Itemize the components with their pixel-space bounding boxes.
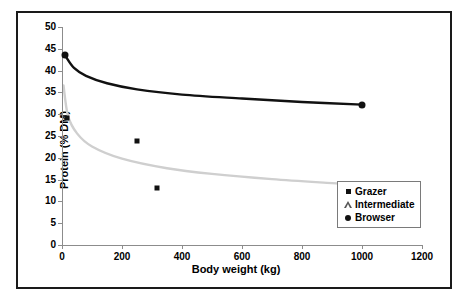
legend-item-intermediate: Intermediate: [342, 198, 414, 211]
legend-item-grazer: Grazer: [342, 185, 414, 198]
data-point-grazer: [135, 139, 140, 144]
y-tick-label: 40: [45, 66, 56, 76]
x-tick-mark: [62, 245, 63, 249]
y-tick-label: 30: [45, 109, 56, 119]
y-tick-label: 20: [45, 153, 56, 163]
trendline: [64, 85, 384, 186]
y-tick-mark: [58, 223, 62, 224]
y-tick-label: 0: [50, 240, 56, 250]
x-tick-mark: [182, 245, 183, 249]
filled-square-icon: [342, 189, 354, 194]
x-axis-title: Body weight (kg): [18, 263, 454, 275]
y-tick-mark: [58, 180, 62, 181]
legend-label: Browser: [355, 213, 395, 223]
y-tick-mark: [58, 201, 62, 202]
y-tick-label: 35: [45, 87, 56, 97]
y-tick-label: 50: [45, 22, 56, 32]
figure-frame: Protein (% DM) Body weight (kg) 05101520…: [16, 11, 452, 289]
x-tick-label: 200: [114, 252, 131, 262]
y-tick-mark: [58, 27, 62, 28]
x-tick-label: 400: [174, 252, 191, 262]
data-point-browser: [62, 52, 69, 59]
y-tick-label: 5: [50, 218, 56, 228]
legend-label: Intermediate: [355, 200, 414, 210]
filled-circle-icon: [342, 215, 354, 221]
y-tick-mark: [58, 136, 62, 137]
legend: Grazer Intermediate Browser: [337, 181, 421, 228]
x-tick-mark: [122, 245, 123, 249]
data-point-grazer: [64, 115, 69, 120]
trendline: [65, 55, 362, 104]
y-axis-line: [62, 27, 63, 245]
x-tick-mark: [302, 245, 303, 249]
y-tick-mark: [58, 71, 62, 72]
y-tick-label: 10: [45, 196, 56, 206]
x-tick-mark: [422, 245, 423, 249]
open-triangle-icon: [342, 201, 354, 208]
y-tick-label: 45: [45, 44, 56, 54]
y-tick-mark: [58, 49, 62, 50]
y-tick-mark: [58, 158, 62, 159]
y-tick-mark: [58, 92, 62, 93]
x-tick-label: 1000: [351, 252, 373, 262]
x-tick-label: 1200: [411, 252, 433, 262]
data-point-grazer: [154, 186, 159, 191]
y-tick-label: 15: [45, 175, 56, 185]
legend-item-browser: Browser: [342, 211, 414, 224]
y-tick-mark: [58, 114, 62, 115]
x-tick-label: 0: [59, 252, 65, 262]
x-tick-mark: [242, 245, 243, 249]
x-tick-label: 800: [294, 252, 311, 262]
x-tick-label: 600: [234, 252, 251, 262]
legend-label: Grazer: [355, 187, 387, 197]
x-tick-mark: [362, 245, 363, 249]
y-tick-label: 25: [45, 131, 56, 141]
data-point-browser: [359, 101, 366, 108]
